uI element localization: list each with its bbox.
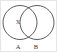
set-label-a: A <box>16 43 21 50</box>
point-label-x: X <box>16 19 21 25</box>
venn-diagram-canvas: X A B <box>1 1 57 52</box>
venn-diagram-figure: X A B <box>0 0 57 52</box>
set-label-b: B <box>34 43 39 50</box>
